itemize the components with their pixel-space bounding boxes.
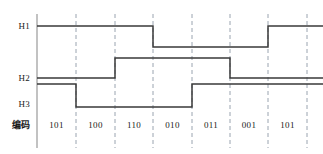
- code-row-label: 编码: [0, 120, 30, 130]
- code-cell-7: 101: [268, 120, 307, 130]
- code-cell-2: 100: [76, 120, 115, 130]
- signal-label-h1: H1: [2, 21, 30, 31]
- waveform-h2: [37, 58, 323, 78]
- code-cell-3: 110: [115, 120, 153, 130]
- code-cell-6: 001: [230, 120, 268, 130]
- waveform-h1: [37, 26, 323, 47]
- code-cell-5: 011: [192, 120, 230, 130]
- signal-label-h3: H3: [2, 99, 30, 109]
- waveform-h3: [37, 84, 323, 107]
- timing-diagram-svg: [0, 0, 323, 154]
- code-cell-1: 101: [37, 120, 76, 130]
- signal-label-h2: H2: [2, 73, 30, 83]
- timing-diagram-container: H1 H2 H3 编码 101 100 110 010 011 001 101: [0, 0, 323, 154]
- code-cell-4: 010: [153, 120, 192, 130]
